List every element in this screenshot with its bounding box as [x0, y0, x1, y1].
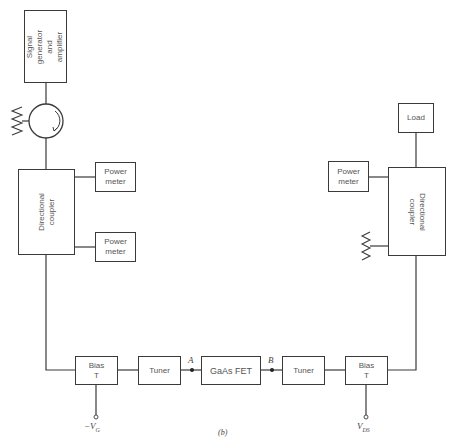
tuner-output-block: Tuner [282, 356, 325, 385]
gate-terminal-icon [94, 415, 98, 419]
directional-coupler-left-block: Directional coupler [18, 169, 75, 255]
gate-voltage-label: −VG [84, 421, 100, 433]
tuner-input-block: Tuner [138, 356, 181, 385]
load-block: Load [398, 103, 434, 133]
drain-voltage-label: VDS [357, 421, 370, 433]
signal-generator-block: Signal generator and amplifier [24, 10, 67, 83]
gate-voltage-prefix: −V [84, 421, 96, 431]
figure-caption: (b) [218, 428, 227, 437]
bias-t-left-block: Bias T [75, 356, 118, 385]
gate-voltage-subscript: G [96, 427, 100, 433]
bias-t-right-block: Bias T [345, 356, 388, 385]
power-meter-bottom-left-block: Power meter [95, 232, 136, 262]
node-b-label: B [268, 355, 274, 365]
directional-coupler-left-label: Directional coupler [36, 193, 56, 231]
signal-generator-label: Signal generator and amplifier [26, 29, 66, 63]
power-meter-top-left-block: Power meter [95, 162, 136, 192]
power-meter-right-block: Power meter [328, 161, 369, 192]
drain-terminal-icon [364, 415, 368, 419]
directional-coupler-right-block: Directional coupler [388, 167, 446, 256]
node-b-dot [270, 368, 274, 372]
node-a-label: A [188, 355, 194, 365]
directional-coupler-right-label: Directional coupler [407, 193, 427, 231]
node-a-dot [190, 368, 194, 372]
gaas-fet-block: GaAs FET [201, 356, 261, 385]
drain-voltage-subscript: DS [363, 427, 370, 433]
